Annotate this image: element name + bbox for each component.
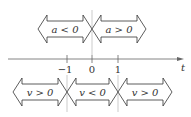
velocity-label-left: v > 0 bbox=[27, 87, 54, 98]
acceleration-arrow-negative: a < 0 bbox=[38, 15, 92, 43]
axis-variable-label: t bbox=[181, 62, 186, 73]
tick-label-zero: 0 bbox=[89, 64, 95, 75]
acceleration-label-negative: a < 0 bbox=[51, 24, 79, 35]
velocity-label-middle: v < 0 bbox=[79, 87, 106, 98]
acceleration-arrow-positive: a > 0 bbox=[92, 15, 146, 43]
velocity-label-right: v > 0 bbox=[132, 87, 159, 98]
velocity-arrow-middle: v < 0 bbox=[67, 78, 118, 106]
sign-diagram: a < 0 a > 0 −1 0 1 t v > 0 v < 0 v > 0 bbox=[0, 0, 191, 117]
velocity-arrow-right: v > 0 bbox=[118, 78, 172, 106]
velocity-arrow-left: v > 0 bbox=[13, 78, 67, 106]
tick-label-one: 1 bbox=[115, 64, 121, 75]
tick-label-minus-one: −1 bbox=[58, 64, 73, 75]
acceleration-label-positive: a > 0 bbox=[105, 24, 133, 35]
axis-arrowhead-icon bbox=[177, 57, 184, 61]
